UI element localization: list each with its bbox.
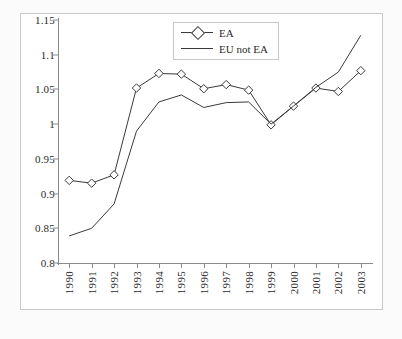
- figure: 0.80.850.90.9511.051.11.15 1990199119921…: [0, 0, 402, 339]
- data-point-marker: [177, 70, 185, 78]
- data-point-marker: [200, 85, 208, 93]
- data-point-marker: [87, 179, 95, 187]
- data-point-marker: [110, 171, 118, 179]
- legend-line-icon: [180, 43, 214, 55]
- data-point-marker: [244, 86, 252, 94]
- legend-item-eu-not-ea: EU not EA: [180, 42, 268, 56]
- legend: EA EU not EA: [173, 22, 279, 60]
- legend-label-ea: EA: [219, 27, 234, 39]
- legend-label-eu-not-ea: EU not EA: [219, 43, 268, 55]
- series-line-eu-not-ea: [69, 35, 361, 236]
- data-point-marker: [65, 176, 73, 184]
- data-point-marker: [222, 80, 230, 88]
- data-point-marker: [155, 69, 163, 77]
- legend-diamond-line-icon: [180, 27, 214, 39]
- data-point-marker: [132, 84, 140, 92]
- legend-item-ea: EA: [180, 26, 234, 40]
